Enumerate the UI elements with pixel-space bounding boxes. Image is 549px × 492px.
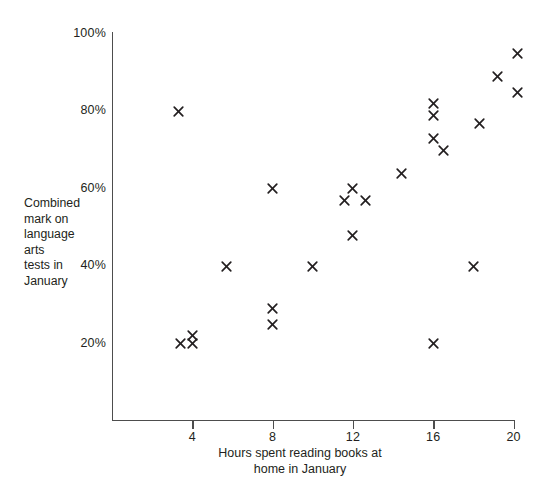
data-point-marker <box>172 105 185 118</box>
data-point-marker <box>266 182 279 195</box>
x-axis-tick <box>192 421 193 429</box>
y-axis-tick-label: 60% <box>46 181 106 195</box>
data-point-marker <box>174 337 187 350</box>
data-point-marker <box>437 144 450 157</box>
data-point-marker <box>511 86 524 99</box>
y-axis-tick-label: 100% <box>46 26 106 40</box>
data-point-marker <box>427 337 440 350</box>
x-axis-tick <box>433 421 434 429</box>
y-axis-title-line: language <box>24 227 110 243</box>
scatter-plot-figure: 48121620 20%40%60%80%100% Combinedmark o… <box>0 0 549 492</box>
x-axis-tick-label: 20 <box>494 430 534 444</box>
x-axis-title-line: home in January <box>150 461 450 477</box>
y-axis-title-line: tests in <box>24 258 110 274</box>
y-axis-tick-label: 80% <box>46 103 106 117</box>
x-axis-tick-label: 8 <box>253 430 293 444</box>
data-point-marker <box>186 337 199 350</box>
y-axis-tick-label: 20% <box>46 336 106 350</box>
data-point-marker <box>266 302 279 315</box>
x-axis-tick <box>273 421 274 429</box>
y-axis-title: Combinedmark onlanguageartstests inJanua… <box>24 196 110 290</box>
y-axis-title-line: Combined <box>24 196 110 212</box>
x-axis-tick-label: 4 <box>172 430 212 444</box>
data-point-marker <box>346 229 359 242</box>
data-point-marker <box>266 318 279 331</box>
data-point-marker <box>338 194 351 207</box>
data-point-marker <box>395 167 408 180</box>
x-axis-tick-label: 16 <box>413 430 453 444</box>
y-axis-title-line: mark on <box>24 212 110 228</box>
data-point-marker <box>359 194 372 207</box>
y-axis-title-line: January <box>24 274 110 290</box>
data-point-marker <box>346 182 359 195</box>
y-axis-title-line: arts <box>24 243 110 259</box>
x-axis-title-line: Hours spent reading books at <box>150 445 450 461</box>
x-axis-tick <box>353 421 354 429</box>
data-point-marker <box>511 47 524 60</box>
x-axis-title: Hours spent reading books athome in Janu… <box>150 445 450 477</box>
data-point-marker <box>220 260 233 273</box>
data-point-marker <box>491 70 504 83</box>
data-point-marker <box>427 109 440 122</box>
x-axis-line <box>112 420 515 421</box>
x-axis-tick-label: 12 <box>333 430 373 444</box>
x-axis-tick <box>514 421 515 429</box>
y-axis-line <box>112 32 113 421</box>
data-point-marker <box>473 117 486 130</box>
data-point-marker <box>306 260 319 273</box>
data-point-marker <box>467 260 480 273</box>
